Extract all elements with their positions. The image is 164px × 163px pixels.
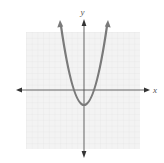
parabola-graph: x y [0,0,164,163]
x-axis-label: x [152,85,157,95]
y-axis-label: y [80,7,85,17]
curve-right-arrow-icon [105,20,111,28]
x-axis-right-arrow-icon [144,88,150,93]
y-axis-down-arrow-icon [82,151,87,158]
x-axis-left-arrow-icon [16,88,22,93]
grid-background [26,32,140,149]
curve-left-arrow-icon [57,20,63,28]
y-axis-up-arrow-icon [82,19,87,26]
